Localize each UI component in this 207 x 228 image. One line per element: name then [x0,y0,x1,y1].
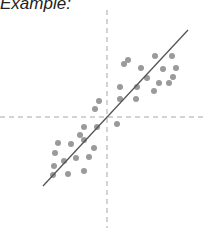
data-point [152,53,158,59]
data-point [65,171,71,177]
data-point [156,80,162,86]
regression-line [43,30,188,186]
data-point [68,141,74,147]
data-point [81,124,87,130]
data-point [55,140,61,146]
data-point [114,121,120,127]
data-points [50,53,179,178]
data-point [173,65,179,71]
data-point [117,84,123,90]
data-point [166,80,172,86]
data-point [73,155,79,161]
data-point [52,150,58,156]
data-point [169,53,175,59]
data-point [125,57,131,63]
data-point [151,88,157,94]
scatter-plot [0,0,207,228]
data-point [133,96,139,102]
data-point [81,168,87,174]
data-point [92,106,98,112]
data-point [160,66,166,72]
data-point [91,145,97,151]
data-point [51,163,57,169]
data-point [96,98,102,104]
data-point [138,65,144,71]
data-point [77,132,83,138]
data-point [86,154,92,160]
data-point [170,74,176,80]
